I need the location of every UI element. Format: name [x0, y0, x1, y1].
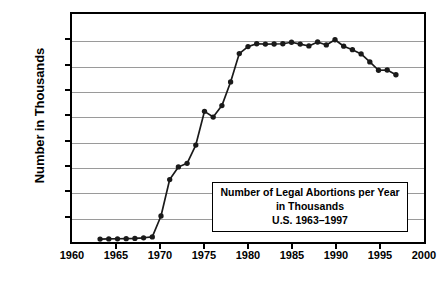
- annotation-line-1: Number of Legal Abortions per Year: [220, 186, 399, 200]
- x-tick-label: 1980: [225, 249, 271, 261]
- x-tick-mark: [379, 244, 381, 249]
- y-tick-mark: [65, 165, 70, 167]
- x-tick-mark: [203, 244, 205, 249]
- data-point: [350, 47, 355, 52]
- x-tick-label: 1990: [313, 249, 359, 261]
- data-point: [228, 79, 233, 84]
- data-point: [211, 114, 216, 119]
- data-point: [393, 72, 398, 77]
- annotation-box: Number of Legal Abortions per Year in Th…: [212, 182, 408, 232]
- data-point: [237, 51, 242, 56]
- x-tick-mark: [247, 244, 249, 249]
- data-point: [332, 37, 337, 42]
- x-tick-label: 1995: [357, 249, 403, 261]
- data-point: [193, 142, 198, 147]
- y-tick-mark: [65, 114, 70, 116]
- data-point: [376, 68, 381, 73]
- data-point: [367, 59, 372, 64]
- x-tick-label: 2000: [401, 249, 439, 261]
- data-point: [358, 51, 363, 56]
- data-point: [306, 43, 311, 48]
- y-tick-mark: [65, 64, 70, 66]
- y-tick-mark: [65, 38, 70, 40]
- data-point: [176, 164, 181, 169]
- data-point: [271, 41, 276, 46]
- data-point: [124, 236, 129, 241]
- annotation-line-3: U.S. 1963–1997: [272, 214, 348, 228]
- y-axis-title: Number in Thousands: [32, 16, 47, 216]
- x-tick-label: 1960: [49, 249, 95, 261]
- data-point: [245, 44, 250, 49]
- data-point: [254, 41, 259, 46]
- data-point: [315, 39, 320, 44]
- data-point: [324, 42, 329, 47]
- x-tick-label: 1975: [181, 249, 227, 261]
- data-point: [184, 161, 189, 166]
- y-tick-mark: [65, 140, 70, 142]
- data-point: [289, 40, 294, 45]
- x-tick-mark: [335, 244, 337, 249]
- y-tick-mark: [65, 216, 70, 218]
- x-tick-mark: [159, 244, 161, 249]
- data-point: [263, 41, 268, 46]
- y-tick-mark: [65, 190, 70, 192]
- annotation-line-2: in Thousands: [276, 200, 344, 214]
- y-tick-mark: [65, 89, 70, 91]
- data-point: [141, 235, 146, 240]
- data-point: [106, 236, 111, 241]
- data-point: [97, 236, 102, 241]
- x-tick-label: 1985: [269, 249, 315, 261]
- data-point: [115, 236, 120, 241]
- data-point: [132, 236, 137, 241]
- data-point: [158, 213, 163, 218]
- x-tick-label: 1965: [93, 249, 139, 261]
- data-point: [202, 109, 207, 114]
- data-point: [150, 234, 155, 239]
- data-point: [280, 41, 285, 46]
- x-tick-mark: [291, 244, 293, 249]
- data-point: [167, 177, 172, 182]
- data-point: [341, 44, 346, 49]
- abortions-per-year-line-chart: Number in Thousands 02004006008001000120…: [0, 0, 439, 281]
- x-tick-label: 1970: [137, 249, 183, 261]
- data-point: [219, 103, 224, 108]
- data-point: [385, 67, 390, 72]
- x-tick-mark: [115, 244, 117, 249]
- data-point: [298, 41, 303, 46]
